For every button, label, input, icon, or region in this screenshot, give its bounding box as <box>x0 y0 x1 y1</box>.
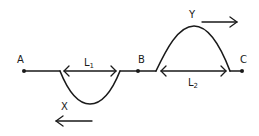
pulse-x-direction-arrow-left-icon <box>56 116 92 126</box>
pulse-y-crest <box>156 26 230 71</box>
point-c-dot <box>240 69 244 73</box>
point-b-label: B <box>138 54 145 65</box>
pulse-y-label: Y <box>188 9 196 20</box>
pulse-x-label: X <box>61 101 68 112</box>
length-l2-double-arrow-icon <box>161 66 226 76</box>
pulse-y-direction-arrow-right-icon <box>202 17 237 27</box>
point-a-label: A <box>17 54 24 65</box>
wave-pulse-diagram: A B C L1 L2 Y X <box>0 0 259 136</box>
length-l1-label: L1 <box>84 57 94 70</box>
point-a-dot <box>22 69 26 73</box>
point-b-dot <box>136 69 140 73</box>
length-l2-label: L2 <box>188 77 198 90</box>
point-c-label: C <box>240 54 247 65</box>
